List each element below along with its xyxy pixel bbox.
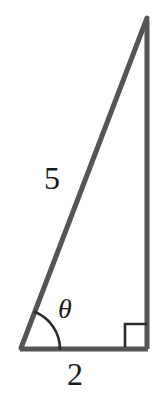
right-triangle-figure — [0, 0, 157, 408]
angle-theta-label: θ — [58, 295, 72, 323]
angle-arc-marker — [35, 312, 60, 349]
triangle-hypotenuse-side — [21, 18, 147, 348]
figure-canvas: 5 2 θ — [0, 0, 157, 408]
hypotenuse-length-label: 5 — [44, 162, 60, 194]
right-angle-marker — [125, 324, 147, 347]
base-length-label: 2 — [67, 358, 83, 390]
